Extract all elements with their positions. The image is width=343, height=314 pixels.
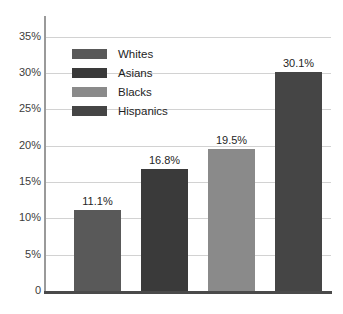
legend-label: Blacks [118,86,152,98]
gridline-35 [46,37,331,38]
bar-value-label: 16.8% [129,154,200,166]
bar-whites[interactable] [74,210,121,291]
legend-item-asians[interactable]: Asians [72,63,212,82]
bar-chart-figure: 35% 30% 25% 20% 15% 10% 5% 0 11.1% 16.8%… [0,0,343,314]
bar-value-label: 19.5% [196,134,267,146]
bar-blacks[interactable] [208,149,255,291]
bar-value-label: 30.1% [263,57,334,69]
legend-item-whites[interactable]: Whites [72,44,212,63]
y-tick-label: 5% [1,249,41,260]
y-tick-label: 35% [1,31,41,42]
legend-item-blacks[interactable]: Blacks [72,82,212,101]
y-tick-label: 30% [1,67,41,78]
legend-swatch-icon [72,49,107,59]
y-tick-label: 20% [1,140,41,151]
x-axis-line [44,291,332,294]
legend-item-hispanics[interactable]: Hispanics [72,101,212,120]
y-axis-tick-labels: 35% 30% 25% 20% 15% 10% 5% 0 [0,0,41,314]
bar-asians[interactable] [141,169,188,291]
y-axis-line [44,16,46,291]
bar-value-label: 11.1% [62,195,133,207]
legend-swatch-icon [72,106,107,116]
y-tick-label: 10% [1,212,41,223]
legend-label: Asians [118,67,153,79]
bar-hispanics[interactable] [275,72,322,291]
legend-swatch-icon [72,68,107,78]
y-tick-label: 15% [1,176,41,187]
legend-label: Hispanics [118,105,168,117]
legend-label: Whites [118,48,153,60]
y-tick-label: 0 [1,285,41,296]
y-tick-label: 25% [1,103,41,114]
chart-legend: Whites Asians Blacks Hispanics [72,44,212,120]
legend-swatch-icon [72,87,107,97]
